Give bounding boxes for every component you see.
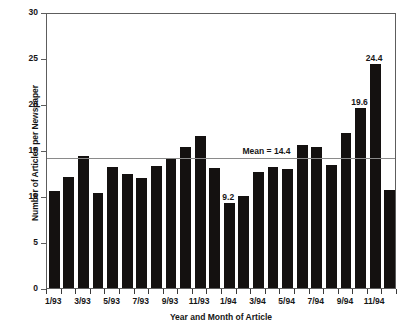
- x-tick-mark: [396, 289, 397, 294]
- bar-7-93: [136, 178, 147, 288]
- bar-7-94: [311, 147, 322, 288]
- bar-value-label-19-6: 19.6: [346, 97, 374, 107]
- x-tick-label-1-94: 1/94: [220, 296, 237, 306]
- bar-1-94: [224, 203, 235, 288]
- y-tick-label: 0: [33, 283, 38, 293]
- plot-area: [46, 13, 396, 289]
- x-tick-mark: [134, 289, 135, 294]
- bar-5-94: [282, 169, 293, 288]
- x-tick-mark: [104, 289, 105, 294]
- x-tick-label-1-93: 1/93: [45, 296, 62, 306]
- bar-4-93: [93, 193, 104, 288]
- x-tick-label-7-94: 7/94: [308, 296, 325, 306]
- bar-6-94: [297, 145, 308, 288]
- bar-3-94: [253, 172, 264, 288]
- x-tick-label-5-93: 5/93: [103, 296, 120, 306]
- x-tick-label-9-94: 9/94: [337, 296, 354, 306]
- bar-2-94: [238, 196, 249, 288]
- x-tick-mark: [338, 289, 339, 294]
- x-tick-mark: [367, 289, 368, 294]
- x-tick-mark: [279, 289, 280, 294]
- x-tick-mark: [352, 289, 353, 294]
- x-tick-mark: [250, 289, 251, 294]
- x-tick-mark: [119, 289, 120, 294]
- y-tick-label: 10: [29, 191, 38, 201]
- bar-8-94: [326, 165, 337, 288]
- x-tick-mark: [221, 289, 222, 294]
- bar-12-94: [384, 190, 395, 288]
- x-tick-mark: [236, 289, 237, 294]
- x-tick-mark: [381, 289, 382, 294]
- bar-value-label-24-4: 24.4: [360, 53, 388, 63]
- x-tick-label-11-94: 11/94: [364, 296, 385, 306]
- x-tick-mark: [323, 289, 324, 294]
- x-tick-label-5-94: 5/94: [278, 296, 295, 306]
- x-tick-mark: [192, 289, 193, 294]
- x-tick-mark: [46, 289, 47, 294]
- bar-12-93: [209, 168, 220, 288]
- x-tick-label-3-94: 3/94: [249, 296, 266, 306]
- bar-2-93: [63, 177, 74, 288]
- x-tick-mark: [75, 289, 76, 294]
- x-tick-mark: [61, 289, 62, 294]
- bar-6-93: [122, 174, 133, 288]
- bar-10-94: [355, 108, 366, 288]
- x-tick-mark: [206, 289, 207, 294]
- y-tick-label: 20: [29, 99, 38, 109]
- x-tick-mark: [163, 289, 164, 294]
- y-tick-label: 5: [33, 237, 38, 247]
- x-tick-label-7-93: 7/93: [133, 296, 150, 306]
- mean-line: [47, 158, 395, 159]
- bar-4-94: [268, 167, 279, 288]
- x-tick-label-3-93: 3/93: [74, 296, 91, 306]
- bar-11-93: [195, 136, 206, 288]
- bar-1-93: [49, 191, 60, 288]
- x-axis-title: Year and Month of Article: [46, 312, 396, 322]
- bar-8-93: [151, 166, 162, 288]
- bar-5-93: [107, 167, 118, 288]
- x-tick-mark: [294, 289, 295, 294]
- mean-line-label: Mean = 14.4: [243, 146, 291, 156]
- bar-3-93: [78, 156, 89, 288]
- y-tick-label: 25: [29, 53, 38, 63]
- y-tick-label: 30: [29, 7, 38, 17]
- x-tick-mark: [309, 289, 310, 294]
- x-tick-label-11-93: 11/93: [189, 296, 210, 306]
- bar-9-93: [166, 158, 177, 288]
- x-tick-mark: [148, 289, 149, 294]
- bar-chart: Number of Articles per Newspaper 3025201…: [0, 0, 416, 333]
- x-tick-mark: [265, 289, 266, 294]
- x-tick-mark: [90, 289, 91, 294]
- x-tick-label-9-93: 9/93: [162, 296, 179, 306]
- y-tick-label: 15: [29, 145, 38, 155]
- x-tick-mark: [177, 289, 178, 294]
- bar-10-93: [180, 147, 191, 288]
- bar-value-label-9-2: 9.2: [214, 192, 242, 202]
